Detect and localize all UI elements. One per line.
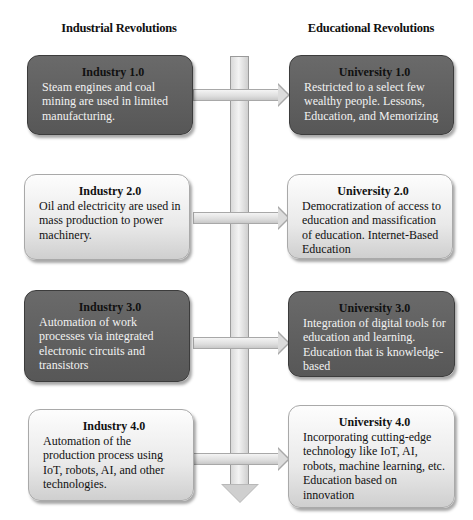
industry-4-description: Automation of the production process usi… — [43, 434, 185, 492]
university-4-title: University 4.0 — [303, 415, 446, 430]
timeline-arrow-shaft — [230, 56, 249, 486]
university-4-description: Incorporating cutting-edge technology li… — [303, 430, 446, 503]
connector-arrow-2 — [193, 212, 279, 224]
industry-3-description: Automation of work processes via integra… — [39, 315, 181, 373]
industry-4-box: Industry 4.0 Automation of the productio… — [28, 409, 194, 501]
industry-1-description: Steam engines and coal mining are used i… — [42, 80, 184, 124]
university-2-title: University 2.0 — [302, 184, 444, 199]
industry-1-title: Industry 1.0 — [42, 65, 184, 80]
university-1-box: University 1.0 Restricted to a select fe… — [289, 55, 454, 135]
connector-arrow-head-fill — [278, 449, 288, 469]
connector-arrow-1 — [193, 89, 279, 101]
university-1-title: University 1.0 — [304, 65, 445, 80]
industry-2-title: Industry 2.0 — [39, 184, 181, 199]
connector-arrow-head-fill — [278, 85, 288, 105]
university-3-title: University 3.0 — [303, 301, 446, 316]
timeline-arrow-head-fill — [223, 485, 257, 502]
educational-revolutions-header: Educational Revolutions — [271, 21, 471, 36]
connector-arrow-head-fill — [278, 333, 288, 353]
industry-1-box: Industry 1.0 Steam engines and coal mini… — [27, 55, 193, 135]
industrial-revolutions-header: Industrial Revolutions — [19, 21, 219, 36]
university-2-description: Democratization of access to education a… — [302, 199, 444, 257]
industry-2-description: Oil and electricity are used in mass pro… — [39, 199, 181, 243]
university-3-box: University 3.0 Integration of digital to… — [288, 291, 455, 377]
connector-arrow-4 — [193, 453, 279, 465]
industry-4-title: Industry 4.0 — [43, 419, 185, 434]
university-4-box: University 4.0 Incorporating cutting-edg… — [288, 405, 455, 508]
industry-2-box: Industry 2.0 Oil and electricity are use… — [24, 174, 190, 260]
university-3-description: Integration of digital tools for educati… — [303, 316, 446, 374]
industry-3-box: Industry 3.0 Automation of work processe… — [24, 290, 190, 382]
industry-3-title: Industry 3.0 — [39, 300, 181, 315]
university-2-box: University 2.0 Democratization of access… — [287, 174, 453, 259]
university-1-description: Restricted to a select few wealthy peopl… — [304, 80, 445, 124]
connector-arrow-3 — [193, 337, 279, 349]
